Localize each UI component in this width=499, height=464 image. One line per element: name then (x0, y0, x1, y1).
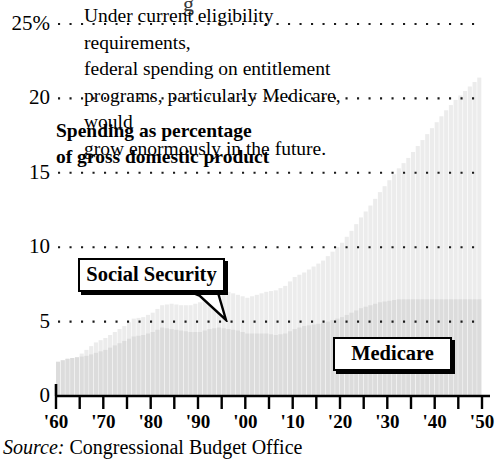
x-tick-label: '50 (459, 412, 499, 431)
x-tick-label: '20 (317, 412, 363, 431)
area-column-social-security (283, 334, 287, 397)
area-column-social-security (236, 331, 240, 396)
area-column-social-security (217, 328, 221, 396)
area-column-social-security (108, 348, 112, 396)
y-tick-label: 25% (2, 13, 50, 34)
area-column-social-security (94, 353, 98, 396)
annotation-line: federal spending on entitlement (84, 56, 374, 83)
callout-social-security: Social Security (78, 258, 229, 296)
x-tick-label: '00 (222, 412, 268, 431)
area-column-social-security (255, 334, 259, 397)
area-column-social-security (274, 335, 278, 396)
area-column-social-security (118, 343, 122, 396)
area-column-social-security (241, 332, 245, 396)
area-column-social-security (264, 334, 268, 397)
x-tick-label: '40 (412, 412, 458, 431)
x-tick-label: '30 (364, 412, 410, 431)
source-line: Source: Congressional Budget Office (3, 436, 302, 458)
area-column-social-security (84, 356, 88, 396)
area-column-social-security (231, 330, 235, 396)
area-column-social-security (477, 299, 481, 396)
area-column-social-security (269, 334, 273, 396)
area-column-social-security (174, 330, 178, 396)
area-column-social-security (141, 335, 145, 396)
area-column-social-security (198, 332, 202, 396)
area-column-social-security (468, 299, 472, 396)
area-column-social-security (316, 324, 320, 396)
area-column-social-security (103, 350, 107, 396)
callout-label-medicare: Medicare (333, 337, 452, 371)
area-column-social-security (136, 336, 140, 396)
y-tick-label: 15 (2, 162, 50, 183)
axis-title-line: Spending as percentage (56, 118, 356, 144)
area-column-social-security (165, 328, 169, 396)
area-column-social-security (212, 328, 216, 396)
axis-title-line: of gross domestic product (56, 144, 356, 170)
area-column-social-security (473, 299, 477, 396)
area-column-social-security (75, 357, 79, 396)
area-column-social-security (127, 339, 131, 396)
area-column-social-security (61, 360, 65, 396)
area-column-social-security (179, 331, 183, 396)
chart-axis-title: Spending as percentageof gross domestic … (56, 118, 356, 170)
area-column-social-security (321, 323, 325, 396)
area-column-social-security (207, 329, 211, 396)
area-column-social-security (326, 322, 330, 396)
area-column-social-security (189, 332, 193, 396)
area-column-social-security (250, 334, 254, 397)
area-column-social-security (288, 331, 292, 396)
x-tick-label: '80 (128, 412, 174, 431)
area-column-social-security (245, 334, 249, 397)
source-keyword: Source: (3, 436, 64, 458)
y-tick-label: 0 (2, 385, 50, 406)
y-tick-label: 20 (2, 87, 50, 108)
area-column-social-security (99, 351, 103, 396)
source-text: Congressional Budget Office (69, 436, 302, 458)
area-column-social-security (80, 357, 84, 396)
area-column-social-security (70, 358, 74, 396)
x-tick-label: '10 (270, 412, 316, 431)
area-column-social-security (463, 299, 467, 396)
callout-medicare: Medicare (333, 337, 457, 375)
x-tick-label: '90 (175, 412, 221, 431)
area-column-social-security (132, 336, 136, 396)
area-column-social-security (203, 331, 207, 396)
area-column-social-security (170, 329, 174, 396)
area-column-social-security (278, 334, 282, 396)
area-column-social-security (302, 326, 306, 396)
area-column-social-security (155, 330, 159, 396)
area-column-social-security (260, 334, 264, 397)
area-column-social-security (146, 334, 150, 397)
area-column-social-security (297, 328, 301, 396)
area-column-social-security (458, 299, 462, 396)
area-column-social-security (151, 332, 155, 396)
area-column-social-security (122, 341, 126, 396)
area-column-social-security (312, 325, 316, 396)
area-column-social-security (293, 329, 297, 396)
area-column-social-security (226, 329, 230, 396)
area-column-social-security (160, 328, 164, 396)
area-column-social-security (113, 345, 117, 396)
y-tick-label: 5 (2, 311, 50, 332)
area-column-social-security (222, 328, 226, 396)
x-tick-label: '60 (33, 412, 79, 431)
area-column-social-security (89, 354, 93, 396)
area-column-social-security (307, 325, 311, 396)
area-column-social-security (65, 359, 69, 396)
y-tick-label: 10 (2, 236, 50, 257)
x-tick-label: '70 (80, 412, 126, 431)
annotation-line: Under current eligibility requirements, (84, 3, 374, 56)
callout-label-social-security: Social Security (78, 258, 225, 292)
area-column-social-security (193, 332, 197, 396)
area-column-social-security (184, 331, 188, 396)
